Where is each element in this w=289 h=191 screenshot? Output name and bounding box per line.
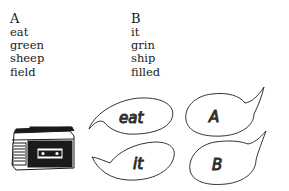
speech-bubble-b: B: [190, 131, 266, 184]
bubble-a-text: A: [208, 108, 219, 126]
illustration: eat it A B: [0, 0, 289, 191]
bubble-eat-text: eat: [119, 109, 144, 127]
speech-bubble-it: it: [92, 142, 174, 180]
speech-bubble-a: A: [186, 87, 264, 136]
bubble-b-text: B: [212, 156, 222, 174]
cassette-player-icon: [12, 127, 74, 170]
speech-bubble-eat: eat: [89, 98, 173, 134]
bubble-it-text: it: [133, 155, 144, 173]
